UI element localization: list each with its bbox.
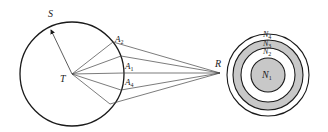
radius-arrow [51,30,72,74]
ray-t-b [72,56,121,74]
diagram: S T R A2 A1 A4 N4 N3 N2 N1 [0,0,328,132]
ray-t-c [72,74,110,104]
label-a4: A4 [124,77,134,88]
ray-t-a2 [72,42,113,74]
rays-from-t [72,42,124,104]
ray-t-a1 [72,73,124,74]
rays-to-r [110,42,220,104]
label-r: R [214,58,221,69]
label-a2: A2 [114,34,124,45]
diagram-canvas: S T R A2 A1 A4 N4 N3 N2 N1 [0,0,328,132]
ray-t-a4 [72,74,121,90]
label-s: S [48,8,53,19]
label-t: T [60,73,67,84]
ray-a4-r [121,73,220,90]
label-a1: A1 [124,61,134,72]
